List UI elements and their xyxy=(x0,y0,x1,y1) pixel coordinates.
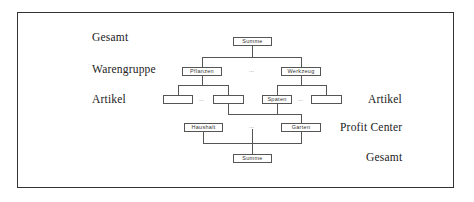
connector xyxy=(277,104,278,114)
ellipsis-warengruppe: ... xyxy=(249,67,254,73)
connector xyxy=(228,85,229,95)
connector xyxy=(178,85,229,86)
level-label-artikel-left: Artikel xyxy=(92,93,126,105)
ellipsis-artikel-pflanzen: ... xyxy=(199,96,204,102)
node-pflanzen: Pflanzen xyxy=(182,67,222,76)
level-label-artikel-right: Artikel xyxy=(368,93,402,105)
connector xyxy=(228,104,229,114)
level-label-gesamt-right: Gesamt xyxy=(366,151,402,163)
ellipsis-artikel-werkzeug: ... xyxy=(298,96,303,102)
connector xyxy=(228,114,302,115)
connector xyxy=(202,57,302,58)
node-artikel-2 xyxy=(213,95,244,104)
connector xyxy=(301,132,302,143)
level-label-warengruppe: Warengruppe xyxy=(92,63,156,75)
node-summe-top: Summe xyxy=(233,37,272,46)
connector xyxy=(301,76,302,85)
connector xyxy=(301,114,302,123)
node-werkzeug: Werkzeug xyxy=(281,67,321,76)
node-garten: Garten xyxy=(281,123,321,132)
connector xyxy=(277,85,327,86)
connector xyxy=(202,76,203,85)
connector xyxy=(252,129,253,154)
node-summe-bottom: Summe xyxy=(233,154,272,163)
node-artikel-1 xyxy=(163,95,193,104)
connector xyxy=(301,57,302,67)
connector xyxy=(277,85,278,95)
connector xyxy=(203,132,204,143)
node-haushalt: Haushalt xyxy=(184,123,223,132)
level-label-profit-center: Profit Center xyxy=(340,121,402,133)
level-label-gesamt-left: Gesamt xyxy=(92,31,128,43)
connector xyxy=(178,85,179,95)
connector xyxy=(252,46,253,57)
connector xyxy=(326,85,327,95)
node-spaten: Spaten xyxy=(262,95,292,104)
node-artikel-4 xyxy=(311,95,342,104)
connector xyxy=(202,57,203,67)
